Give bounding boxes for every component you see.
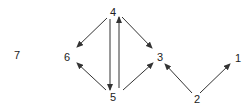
- edge-5-to-3: [123, 63, 153, 90]
- node-2: 2: [194, 94, 200, 105]
- node-4: 4: [110, 7, 116, 18]
- node-1: 1: [235, 53, 241, 64]
- edge-5-to-6: [77, 63, 106, 90]
- edges-layer: [0, 0, 251, 110]
- node-3: 3: [157, 52, 163, 63]
- node-5: 5: [110, 92, 116, 103]
- node-6: 6: [64, 52, 70, 63]
- edge-2-to-1: [200, 64, 230, 93]
- edge-2-to-3: [165, 64, 192, 93]
- edges-group: [77, 17, 230, 93]
- node-7: 7: [14, 50, 20, 61]
- edge-4-to-3: [122, 17, 152, 48]
- directed-graph: 1 2 3 4 5 6 7: [0, 0, 251, 110]
- edge-4-to-6: [77, 18, 107, 47]
